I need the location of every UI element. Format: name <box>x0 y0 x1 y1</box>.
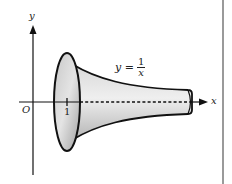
curve-equation-label: y = 1 x <box>115 57 145 78</box>
y-axis <box>30 25 37 175</box>
x-tick-label-1: 1 <box>64 106 70 117</box>
x-axis-label: x <box>211 95 217 106</box>
equation-fraction: 1 x <box>137 57 145 78</box>
origin-label: O <box>22 104 30 115</box>
y-axis-label: y <box>29 10 35 21</box>
horn-diagram <box>0 0 232 184</box>
equation-lhs: y = <box>115 61 134 74</box>
fraction-denominator: x <box>138 68 144 78</box>
